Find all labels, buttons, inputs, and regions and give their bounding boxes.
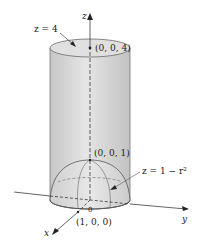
point-1-0-0	[77, 211, 79, 213]
point-0-0-4	[89, 47, 92, 50]
label-x-intercept: (1, 0, 0)	[76, 217, 112, 227]
label-vertex: (0, 0, 1)	[94, 148, 130, 158]
y-axis-back	[14, 192, 50, 196]
cylinder-paraboloid-diagram: z z = 4 (0, 0, 4) (0, 0, 1) z = 1 − r² 0…	[0, 0, 197, 241]
label-top-plane: z = 4	[34, 24, 58, 34]
label-z-axis: z	[81, 11, 87, 21]
label-origin: 0	[88, 206, 92, 214]
y-axis-arrow	[182, 206, 189, 211]
label-y-axis: y	[181, 214, 188, 224]
z-axis-arrow	[87, 13, 93, 20]
label-x-axis: x	[44, 228, 49, 238]
label-top-point: (0, 0, 4)	[95, 43, 131, 53]
y-axis-front	[130, 204, 186, 209]
x-axis-front	[55, 212, 78, 232]
point-0-0-1	[89, 159, 91, 161]
label-paraboloid-eq: z = 1 − r²	[142, 166, 187, 176]
